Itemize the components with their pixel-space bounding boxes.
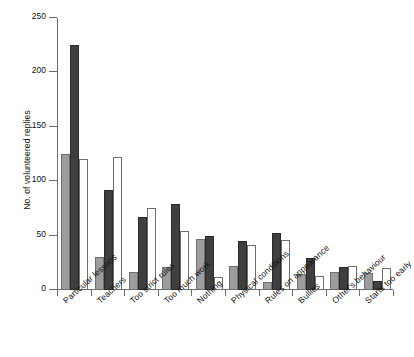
y-axis-tick-label: 150 [32, 120, 49, 130]
bar [104, 190, 113, 290]
bar-group [129, 18, 156, 290]
y-axis-line [57, 18, 58, 290]
x-axis-tick [191, 290, 192, 296]
y-axis-tick: 50 [49, 235, 57, 236]
y-axis-tick: 0 [49, 289, 57, 290]
bar [171, 204, 180, 290]
bar-group [61, 18, 88, 290]
bar-group [95, 18, 122, 290]
bar [113, 157, 122, 290]
y-axis-tick: 200 [49, 71, 57, 72]
bar-group [196, 18, 223, 290]
bar [263, 282, 272, 290]
y-axis-tick-label: 200 [32, 65, 49, 75]
bar [61, 154, 70, 290]
x-axis-tick [292, 290, 293, 296]
y-axis-title: No. of volunteered replies [22, 75, 32, 245]
bar [138, 217, 147, 290]
bar [229, 266, 238, 290]
y-axis-tick-label: 0 [41, 283, 49, 293]
x-axis-tick [91, 290, 92, 296]
y-axis-tick-label: 100 [32, 174, 49, 184]
x-axis-tick [326, 290, 327, 296]
plot-area: 050100150200250 Particular lessonsTeache… [57, 18, 393, 290]
x-axis-tick [57, 290, 58, 296]
bar-group [229, 18, 256, 290]
bar-group [263, 18, 290, 290]
x-axis-tick [225, 290, 226, 296]
y-axis-tick: 100 [49, 180, 57, 181]
x-axis-tick [124, 290, 125, 296]
x-axis-tick [359, 290, 360, 296]
bar [70, 45, 79, 290]
y-axis-tick-label: 250 [32, 11, 49, 21]
y-axis-tick-label: 50 [37, 229, 49, 239]
x-axis-tick [158, 290, 159, 296]
bar-group [330, 18, 357, 290]
bar [330, 272, 339, 290]
bar-group [364, 18, 391, 290]
x-axis-tick [393, 290, 394, 296]
bar [129, 272, 138, 290]
y-axis-tick: 250 [49, 17, 57, 18]
bar-group [162, 18, 189, 290]
x-axis-tick [259, 290, 260, 296]
y-axis-tick: 150 [49, 126, 57, 127]
bar [79, 159, 88, 290]
